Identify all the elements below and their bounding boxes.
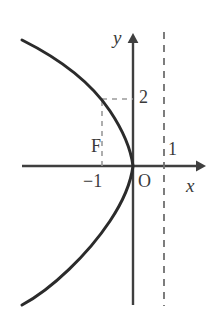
parabola-figure: y x 2 1 −1 F O	[0, 0, 215, 317]
origin-label: O	[138, 172, 151, 190]
x-tick-label-1: 1	[168, 140, 177, 158]
focus-point-label: F	[91, 137, 101, 155]
y-tick-label-2: 2	[139, 88, 148, 106]
x-axis-label: x	[186, 176, 194, 195]
y-axis-arrow-icon	[128, 33, 139, 43]
x-axis-arrow-icon	[196, 161, 206, 172]
x-axis	[22, 161, 206, 172]
y-axis-label: y	[113, 28, 121, 47]
x-tick-label-minus-1: −1	[83, 172, 102, 190]
parabola-curve	[22, 40, 133, 305]
figure-canvas	[0, 0, 215, 317]
